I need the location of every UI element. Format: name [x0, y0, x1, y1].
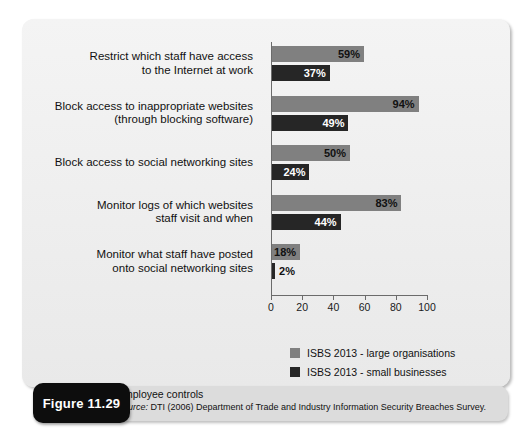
caption-source-body: DTI (2006) Department of Trade and Indus…	[148, 402, 486, 412]
bar-small[interactable]: 37%	[272, 65, 330, 81]
legend-label-large: ISBS 2013 - large organisations	[307, 347, 455, 359]
x-axis-line	[271, 295, 427, 296]
x-tick-mark	[302, 295, 303, 300]
legend-item-small: ISBS 2013 - small businesses	[290, 364, 455, 379]
bar-small[interactable]: 44%	[272, 214, 341, 230]
bar-value-label: 83%	[375, 197, 401, 209]
bar-large[interactable]: 50%	[272, 145, 350, 161]
x-tick-mark	[271, 295, 272, 300]
bar-value-label: 94%	[393, 98, 419, 110]
bar-value-label: 24%	[283, 166, 309, 178]
bar-large[interactable]: 59%	[272, 46, 364, 62]
chart-panel: Restrict which staff have accessto the I…	[22, 19, 510, 387]
bar-value-label: 49%	[322, 117, 348, 129]
category-label-line: (through blocking software)	[43, 113, 253, 127]
category-label: Restrict which staff have accessto the I…	[43, 50, 253, 77]
category-label-line: Block access to inappropriate websites	[43, 100, 253, 114]
caption-text-block: Employee controls Source: DTI (2006) Dep…	[117, 388, 507, 413]
x-tick-mark	[427, 295, 428, 300]
bar-small[interactable]: 49%	[272, 115, 348, 131]
caption-title: Employee controls	[117, 388, 507, 400]
category-label-line: Restrict which staff have access	[43, 50, 253, 64]
legend-swatch-small-icon	[290, 367, 300, 377]
legend-item-large: ISBS 2013 - large organisations	[290, 345, 455, 360]
bar-small[interactable]: 2%	[272, 263, 275, 279]
category-label-line: staff visit and when	[43, 212, 253, 226]
category-label: Block access to social networking sites	[43, 156, 253, 170]
chart-legend: ISBS 2013 - large organisations ISBS 201…	[290, 345, 455, 383]
figure-number-badge: Figure 11.29	[33, 383, 130, 423]
figure-number-label: Figure 11.29	[43, 396, 121, 411]
caption-source: Source: DTI (2006) Department of Trade a…	[117, 401, 507, 413]
bar-value-label: 59%	[338, 48, 364, 60]
x-tick-label: 100	[418, 301, 436, 313]
bar-large[interactable]: 83%	[272, 195, 401, 211]
x-tick-mark	[365, 295, 366, 300]
x-tick-mark	[333, 295, 334, 300]
bar-large[interactable]: 94%	[272, 96, 419, 112]
legend-swatch-large-icon	[290, 348, 300, 358]
x-tick-mark	[396, 295, 397, 300]
x-tick-label: 40	[328, 301, 340, 313]
bar-value-label: 50%	[324, 147, 350, 159]
x-tick-label: 60	[359, 301, 371, 313]
bar-large[interactable]: 18%	[272, 244, 300, 260]
x-tick-label: 0	[268, 301, 274, 313]
category-label: Monitor logs of which websitesstaff visi…	[43, 199, 253, 226]
x-tick-label: 20	[296, 301, 308, 313]
bar-small[interactable]: 24%	[272, 164, 309, 180]
bar-value-label: 37%	[304, 67, 330, 79]
category-label-line: onto social networking sites	[43, 262, 253, 276]
category-label-line: to the Internet at work	[43, 64, 253, 78]
legend-label-small: ISBS 2013 - small businesses	[307, 366, 446, 378]
category-label-line: Monitor logs of which websites	[43, 199, 253, 213]
figure-container: Restrict which staff have accessto the I…	[0, 0, 532, 431]
category-label: Monitor what staff have postedonto socia…	[43, 248, 253, 275]
x-tick-label: 80	[390, 301, 402, 313]
plot-area: 020406080100 59%37%94%49%50%24%83%44%18%…	[271, 42, 503, 295]
bar-value-label: 18%	[274, 246, 300, 258]
category-label: Block access to inappropriate websites(t…	[43, 100, 253, 127]
bar-value-label: 2%	[275, 265, 295, 277]
bar-value-label: 44%	[315, 216, 341, 228]
category-label-line: Monitor what staff have posted	[43, 248, 253, 262]
category-label-line: Block access to social networking sites	[43, 156, 253, 170]
